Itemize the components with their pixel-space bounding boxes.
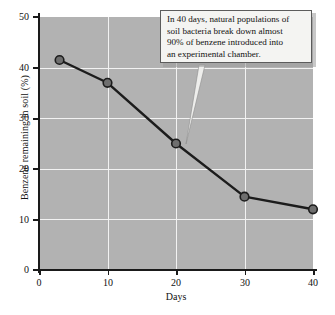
y-axis-tick-label-10: 10 (5, 214, 29, 225)
annotation-line-2: soil bacteria break down almost (167, 26, 306, 38)
y-axis-tick-label-30: 30 (5, 112, 29, 123)
x-axis-tick-label-20: 20 (163, 277, 189, 288)
x-axis-label: Days (39, 291, 313, 302)
annotation-line-3: 90% of benzene introduced into (167, 37, 306, 49)
chart-figure: Benzene remaining in soil (%) 50 40 30 2… (0, 0, 335, 315)
x-axis-tick-0 (39, 270, 41, 275)
x-axis-tick-label-30: 30 (232, 277, 258, 288)
x-axis-tick-label-40: 40 (300, 277, 326, 288)
data-point-marker (240, 192, 249, 201)
x-axis-tick-40 (313, 270, 315, 275)
x-axis-tick-label-10: 10 (95, 277, 121, 288)
data-point-marker (309, 205, 318, 214)
leader-triangle (186, 65, 205, 144)
y-axis-tick-label-40: 40 (5, 62, 29, 73)
y-axis-tick-label-20: 20 (5, 163, 29, 174)
x-axis-tick-30 (245, 270, 247, 275)
annotation-text: In 40 days, natural populations of soil … (167, 14, 306, 60)
data-point-marker (172, 139, 181, 148)
y-axis-tick-label-50: 50 (5, 11, 29, 22)
y-axis-tick-label-0: 0 (5, 264, 29, 275)
x-axis-tick-10 (108, 270, 110, 275)
data-point-marker (103, 78, 112, 87)
annotation-callout: In 40 days, natural populations of soil … (160, 10, 312, 63)
x-axis-tick-20 (176, 270, 178, 275)
data-point-marker (55, 56, 64, 65)
annotation-line-1: In 40 days, natural populations of (167, 14, 306, 26)
annotation-line-4: an experimental chamber. (167, 49, 306, 61)
callout-leader-line (180, 62, 230, 144)
x-axis-tick-label-0: 0 (26, 277, 52, 288)
